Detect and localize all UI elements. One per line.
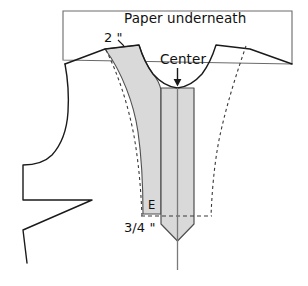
label-paper-underneath: Paper underneath	[124, 12, 246, 26]
label-two-inch-measurement: 2 "	[104, 31, 123, 44]
pattern-diagram: Paper underneath Center 2 " 3/4 " E	[0, 0, 308, 286]
bodice-armhole-side	[23, 64, 92, 263]
diagram-canvas	[0, 0, 308, 286]
label-center: Center	[160, 53, 206, 67]
label-point-e: E	[148, 200, 155, 212]
label-three-quarter-inch-measurement: 3/4 "	[124, 221, 156, 234]
dashed-guideline-right	[211, 46, 246, 216]
center-arrow-icon	[174, 79, 182, 87]
